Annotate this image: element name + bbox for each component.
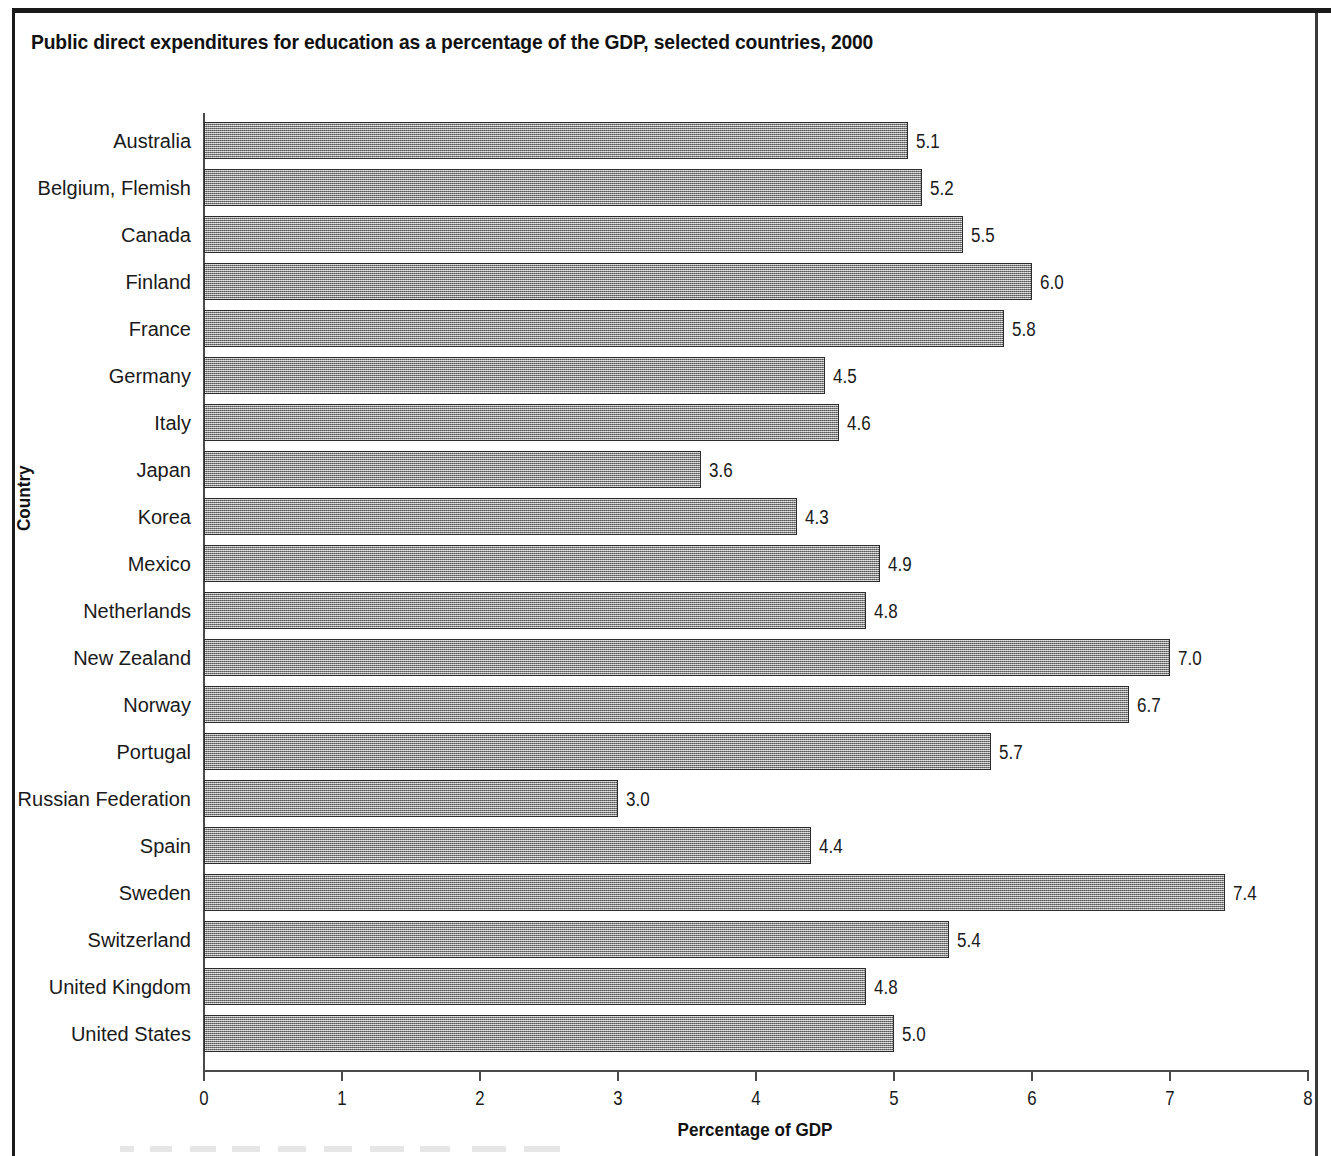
bar-row: Sweden7.4	[0, 874, 1331, 911]
bar-value-label: 4.8	[874, 975, 898, 998]
bar-row: Belgium, Flemish5.2	[0, 169, 1331, 206]
bar-row: Germany4.5	[0, 357, 1331, 394]
bar-value-label: 7.4	[1233, 881, 1257, 904]
bar[interactable]	[204, 169, 922, 206]
bar[interactable]	[204, 968, 866, 1005]
x-axis-tick-label: 3	[602, 1086, 634, 1110]
category-label: Spain	[140, 834, 191, 857]
bar[interactable]	[204, 216, 963, 253]
x-axis-tick	[755, 1070, 757, 1081]
y-axis-title: Country	[13, 465, 35, 531]
bar-value-label: 3.0	[626, 787, 650, 810]
bar[interactable]	[204, 404, 839, 441]
bar-row: Portugal5.7	[0, 733, 1331, 770]
bar[interactable]	[204, 874, 1225, 911]
x-axis-tick-label: 0	[188, 1086, 220, 1110]
x-axis-tick-label: 4	[740, 1086, 772, 1110]
bar-value-label: 4.5	[833, 364, 857, 387]
bar[interactable]	[204, 1015, 894, 1052]
category-label: Norway	[123, 693, 191, 716]
category-label: Germany	[109, 364, 191, 387]
bar-value-label: 5.2	[930, 176, 954, 199]
category-label: New Zealand	[73, 646, 191, 669]
x-axis-tick-label: 5	[878, 1086, 910, 1110]
category-label: Italy	[154, 411, 191, 434]
bar[interactable]	[204, 263, 1032, 300]
bar-value-label: 4.3	[805, 505, 829, 528]
bar-value-label: 6.7	[1137, 693, 1161, 716]
bar-value-label: 4.9	[888, 552, 912, 575]
category-label: Korea	[138, 505, 191, 528]
bar-row: Italy4.6	[0, 404, 1331, 441]
bar-value-label: 4.8	[874, 599, 898, 622]
bar-value-label: 7.0	[1178, 646, 1202, 669]
x-axis-tick	[479, 1070, 481, 1081]
bar[interactable]	[204, 122, 908, 159]
x-axis-tick-label: 7	[1154, 1086, 1186, 1110]
bar-value-label: 6.0	[1040, 270, 1064, 293]
bar[interactable]	[204, 545, 880, 582]
bar-row: Spain4.4	[0, 827, 1331, 864]
bar[interactable]	[204, 827, 811, 864]
x-axis-tick	[341, 1070, 343, 1081]
bar-row: Finland6.0	[0, 263, 1331, 300]
x-axis-tick	[203, 1070, 205, 1081]
category-label: Japan	[137, 458, 192, 481]
bar[interactable]	[204, 639, 1170, 676]
x-axis-tick-label: 6	[1016, 1086, 1048, 1110]
bar[interactable]	[204, 733, 991, 770]
category-label: United States	[71, 1022, 191, 1045]
bar[interactable]	[204, 921, 949, 958]
bar-value-label: 5.0	[902, 1022, 926, 1045]
x-axis-title: Percentage of GDP	[258, 1119, 1252, 1141]
bar[interactable]	[204, 310, 1004, 347]
bar-value-label: 4.6	[847, 411, 871, 434]
bar[interactable]	[204, 592, 866, 629]
category-label: Sweden	[119, 881, 191, 904]
bar[interactable]	[204, 686, 1129, 723]
category-label: Belgium, Flemish	[38, 176, 191, 199]
bar-row: Mexico4.9	[0, 545, 1331, 582]
bar-value-label: 5.5	[971, 223, 995, 246]
bar-row: Switzerland5.4	[0, 921, 1331, 958]
x-axis-tick	[893, 1070, 895, 1081]
bar-row: Canada5.5	[0, 216, 1331, 253]
bar-row: France5.8	[0, 310, 1331, 347]
figure-container: Public direct expenditures for education…	[0, 0, 1331, 1156]
bar-value-label: 5.7	[999, 740, 1023, 763]
bar[interactable]	[204, 451, 701, 488]
bar-row: Korea4.3	[0, 498, 1331, 535]
bar-value-label: 5.4	[957, 928, 981, 951]
bar-row: Norway6.7	[0, 686, 1331, 723]
category-label: Portugal	[117, 740, 192, 763]
category-label: United Kingdom	[49, 975, 191, 998]
x-axis-tick	[617, 1070, 619, 1081]
category-label: France	[129, 317, 191, 340]
x-axis-tick	[1307, 1070, 1309, 1081]
footer-cutoff-text	[120, 1146, 1120, 1152]
category-label: Australia	[113, 129, 191, 152]
bar-row: Australia5.1	[0, 122, 1331, 159]
bar-value-label: 5.1	[916, 129, 940, 152]
bar-row: United States5.0	[0, 1015, 1331, 1052]
category-label: Finland	[125, 270, 191, 293]
bar-value-label: 4.4	[819, 834, 843, 857]
plot-area: 012345678Australia5.1Belgium, Flemish5.2…	[0, 0, 1331, 1156]
bar-row: Russian Federation3.0	[0, 780, 1331, 817]
bar-value-label: 5.8	[1012, 317, 1036, 340]
x-axis-tick-label: 2	[464, 1086, 496, 1110]
bar-row: Netherlands4.8	[0, 592, 1331, 629]
category-label: Canada	[121, 223, 191, 246]
category-label: Netherlands	[83, 599, 191, 622]
category-label: Russian Federation	[18, 787, 191, 810]
bar[interactable]	[204, 357, 825, 394]
bar-value-label: 3.6	[709, 458, 733, 481]
bar-row: Japan3.6	[0, 451, 1331, 488]
category-label: Mexico	[128, 552, 191, 575]
bar[interactable]	[204, 780, 618, 817]
bar-row: United Kingdom4.8	[0, 968, 1331, 1005]
bar-row: New Zealand7.0	[0, 639, 1331, 676]
bar[interactable]	[204, 498, 797, 535]
x-axis-tick-label: 8	[1292, 1086, 1324, 1110]
category-label: Switzerland	[88, 928, 191, 951]
